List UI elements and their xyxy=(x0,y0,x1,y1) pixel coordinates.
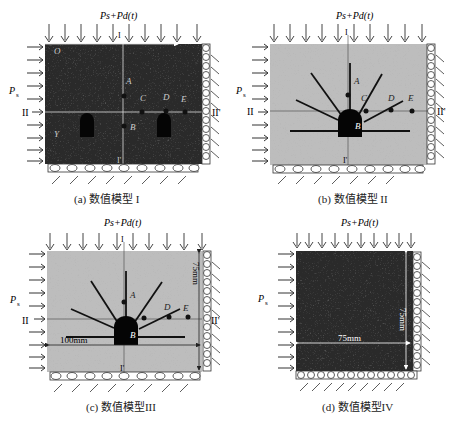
caption-d: (d) 数值模型IV xyxy=(322,400,393,414)
top-load-arrows xyxy=(45,24,201,42)
caption-a: (a) 数值模型 I xyxy=(74,192,140,206)
svg-text:I: I xyxy=(121,235,124,244)
svg-text:D: D xyxy=(163,302,171,312)
dim-height: 75mm xyxy=(191,262,201,285)
tunnel-left xyxy=(80,113,94,137)
svg-text:s: s xyxy=(17,300,20,308)
dim-width: 100mm xyxy=(60,335,88,345)
svg-text:Ps+Pd(t): Ps+Pd(t) xyxy=(103,217,142,229)
svg-text:P: P xyxy=(9,294,16,305)
panel-b: Ps+Pd(t) ACDE B Ps II II' I xyxy=(235,10,446,206)
svg-text:II: II xyxy=(22,315,29,326)
svg-text:I': I' xyxy=(343,156,348,165)
caption-b: (b) 数值模型 II xyxy=(318,192,388,206)
svg-text:C: C xyxy=(140,93,147,103)
svg-text:O: O xyxy=(54,46,61,56)
svg-text:E: E xyxy=(182,303,189,313)
dim-height: 75mm xyxy=(398,308,408,331)
svg-text:P: P xyxy=(257,293,264,304)
svg-text:s: s xyxy=(265,299,268,307)
svg-text:A: A xyxy=(129,290,136,300)
svg-text:II: II xyxy=(22,107,29,118)
svg-text:I: I xyxy=(118,31,121,40)
top-load-label: Ps+Pd(t) xyxy=(99,10,138,22)
svg-text:B: B xyxy=(355,121,361,131)
svg-text:E: E xyxy=(180,94,187,104)
svg-text:Ps+Pd(t): Ps+Pd(t) xyxy=(340,217,379,229)
tunnel-right xyxy=(157,113,171,137)
side-load-arrows xyxy=(27,44,43,164)
svg-text:B: B xyxy=(130,330,136,340)
svg-text:A: A xyxy=(353,76,360,86)
svg-text:II: II xyxy=(247,106,254,117)
svg-text:A: A xyxy=(125,76,132,86)
svg-text:P: P xyxy=(235,85,242,96)
bottom-supports xyxy=(48,164,199,184)
caption-c: (c) 数值模型III xyxy=(86,400,156,414)
svg-text:D: D xyxy=(387,93,395,103)
svg-text:II': II' xyxy=(211,315,220,326)
svg-text:E: E xyxy=(407,93,414,103)
svg-text:B: B xyxy=(130,122,136,132)
svg-text:s: s xyxy=(243,91,246,99)
panel-a: Ps+Pd(t) ABCDE OY Ps II II' I I' xyxy=(8,10,221,206)
svg-text:D: D xyxy=(162,92,170,102)
svg-text:C: C xyxy=(361,93,368,103)
right-supports xyxy=(202,44,219,164)
svg-text:P: P xyxy=(8,85,15,96)
panel-c: Ps+Pd(t) ADE B 100mm 75mm xyxy=(9,217,220,414)
svg-text:s: s xyxy=(16,91,19,99)
dim-width: 75mm xyxy=(338,333,361,343)
panel-d: Ps+Pd(t) 75mm 75mm Ps xyxy=(257,217,430,414)
figure-canvas: Ps+Pd(t) ABCDE OY Ps II II' I I' xyxy=(0,0,460,423)
svg-text:Ps+Pd(t): Ps+Pd(t) xyxy=(335,10,374,22)
svg-text:II': II' xyxy=(212,107,221,118)
svg-text:I: I xyxy=(345,28,348,37)
